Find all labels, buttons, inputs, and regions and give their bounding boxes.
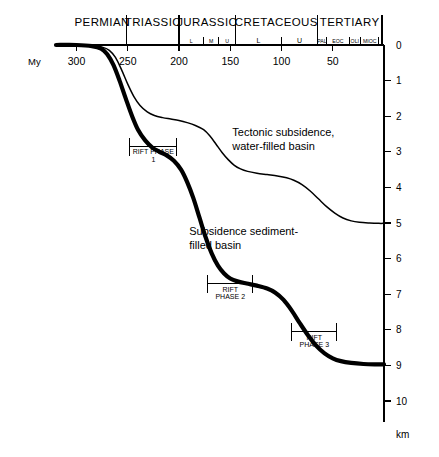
period-label: PERMIAN <box>75 16 130 28</box>
depth-axis-tick-label: 5 <box>396 218 402 229</box>
depth-axis-tick-label: 8 <box>396 324 402 335</box>
time-axis-tick-label: 100 <box>273 55 291 67</box>
time-axis-tick-label: 150 <box>221 55 239 67</box>
time-axis-tick-label: 50 <box>327 55 339 67</box>
period-label-group: PERMIANTRIASSICJURASSICCRETACEOUSTERTIAR… <box>75 16 380 28</box>
depth-axis-tick-label: 3 <box>396 146 402 157</box>
time-axis-tick-label: 300 <box>68 55 86 67</box>
period-label: JURASSIC <box>177 16 237 28</box>
depth-axis-tick-label: 7 <box>396 289 402 300</box>
annotation-group: Tectonic subsidence,water-filled basinSu… <box>189 126 334 252</box>
sediment-filled-curve <box>56 45 384 364</box>
period-label: TRIASSIC <box>125 16 181 28</box>
annotation-sediment: Subsidence sediment- <box>189 225 298 237</box>
epoch-label: M <box>209 38 213 44</box>
time-axis-tick-label: 250 <box>119 55 137 67</box>
rift-phase-2-label: PHASE 2 <box>215 293 245 300</box>
rift-phase-3-label: RIFT <box>307 334 323 341</box>
annotation-tectonic: Tectonic subsidence, <box>232 126 334 138</box>
curve-group <box>56 45 384 364</box>
rift-phase-1-label: RIFT PHASE <box>133 148 174 155</box>
rift-phase-1-label: 1 <box>151 156 155 163</box>
depth-axis: 012345678910 <box>384 40 408 423</box>
depth-axis-tick-label: 0 <box>396 40 402 51</box>
depth-axis-tick-label: 10 <box>396 396 408 407</box>
epoch-label: OLI <box>351 38 359 44</box>
tectonic-subsidence-curve <box>56 45 384 223</box>
epoch-label: MIOC <box>363 38 377 44</box>
epoch-label: L <box>190 38 193 44</box>
annotation-sediment: filled basin <box>189 239 241 251</box>
period-label: CRETACEOUS <box>235 16 318 28</box>
rift-phase-2-label: RIFT <box>222 286 238 293</box>
time-axis-tick-label: 200 <box>170 55 188 67</box>
depth-axis-tick-label: 4 <box>396 182 402 193</box>
chart-canvas: PERMIANTRIASSICJURASSICCRETACEOUSTERTIAR… <box>0 0 439 457</box>
depth-axis-tick-label: 6 <box>396 253 402 264</box>
epoch-label: PAL <box>317 38 327 44</box>
depth-axis-tick-label: 9 <box>396 360 402 371</box>
period-label: TERTIARY <box>320 16 380 28</box>
epoch-label: EOC <box>332 38 343 44</box>
subsidence-chart: PERMIANTRIASSICJURASSICCRETACEOUSTERTIAR… <box>0 0 439 457</box>
epoch-label: U <box>225 38 229 44</box>
rift-phase-3-label: PHASE 3 <box>300 341 330 348</box>
rift-phase-3: RIFTPHASE 3 <box>292 323 337 348</box>
time-axis-label: My <box>28 56 41 67</box>
annotation-tectonic: water-filled basin <box>231 140 315 152</box>
epoch-label: L <box>256 37 260 44</box>
epoch-label: U <box>297 37 302 44</box>
depth-axis-tick-label: 2 <box>396 111 402 122</box>
depth-axis-tick-label: 1 <box>396 75 402 86</box>
depth-axis-label: km <box>396 429 409 440</box>
